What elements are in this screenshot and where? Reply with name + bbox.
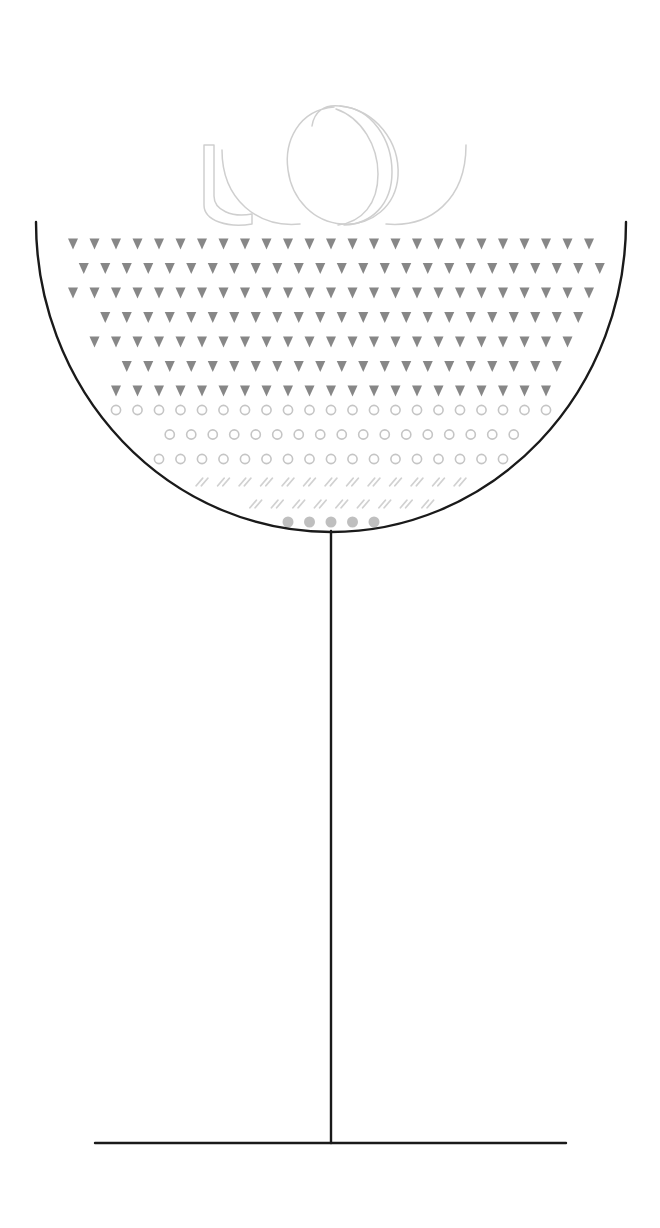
triangle-marker <box>509 263 519 274</box>
triangle-marker <box>154 239 164 250</box>
slash-marker <box>357 500 369 508</box>
slash-marker <box>196 478 208 486</box>
circle-marker <box>455 454 464 463</box>
circle-marker <box>283 405 292 414</box>
slash-marker <box>433 478 445 486</box>
triangle-marker <box>186 312 196 323</box>
circle-marker <box>197 405 206 414</box>
triangle-marker <box>498 337 508 348</box>
slash-marker <box>282 478 294 486</box>
circle-marker <box>380 430 389 439</box>
triangle-marker <box>229 263 239 274</box>
triangle-marker <box>369 239 379 250</box>
triangle-marker <box>90 288 100 299</box>
circle-layer <box>111 405 550 463</box>
triangle-marker <box>176 337 186 348</box>
triangle-marker <box>176 239 186 250</box>
triangle-marker <box>262 337 272 348</box>
circle-marker <box>423 430 432 439</box>
circle-marker <box>412 454 421 463</box>
triangle-marker <box>444 361 454 372</box>
triangle-marker <box>358 361 368 372</box>
triangle-marker <box>487 361 497 372</box>
triangle-marker <box>294 263 304 274</box>
circle-marker <box>230 430 239 439</box>
triangle-marker <box>283 239 293 250</box>
triangle-marker <box>154 386 164 397</box>
triangle-marker <box>122 263 132 274</box>
triangle-marker <box>552 312 562 323</box>
triangle-marker <box>90 337 100 348</box>
circle-marker <box>520 405 529 414</box>
triangle-marker <box>358 312 368 323</box>
triangle-marker <box>315 263 325 274</box>
triangle-marker <box>563 288 573 299</box>
triangle-marker <box>283 386 293 397</box>
circle-marker <box>466 430 475 439</box>
slash-layer <box>196 478 466 508</box>
triangle-marker <box>434 239 444 250</box>
triangle-marker <box>455 337 465 348</box>
slash-marker <box>336 500 348 508</box>
triangle-marker <box>423 361 433 372</box>
triangle-marker <box>111 288 121 299</box>
circle-marker <box>488 430 497 439</box>
triangle-marker <box>326 288 336 299</box>
circle-marker <box>348 405 357 414</box>
triangle-marker <box>530 361 540 372</box>
circle-marker <box>337 430 346 439</box>
triangle-marker <box>541 386 551 397</box>
triangle-marker <box>401 361 411 372</box>
triangle-marker <box>143 312 153 323</box>
triangle-marker <box>229 361 239 372</box>
triangle-marker <box>434 386 444 397</box>
slash-marker <box>325 478 337 486</box>
triangle-marker <box>229 312 239 323</box>
circle-marker <box>369 454 378 463</box>
triangle-marker <box>186 263 196 274</box>
triangle-marker <box>369 386 379 397</box>
triangle-marker <box>423 263 433 274</box>
triangle-marker <box>143 263 153 274</box>
triangle-marker <box>262 239 272 250</box>
triangle-marker <box>552 361 562 372</box>
triangle-marker <box>315 312 325 323</box>
triangle-marker <box>154 337 164 348</box>
triangle-marker <box>498 239 508 250</box>
triangle-marker <box>133 337 143 348</box>
triangle-marker <box>573 263 583 274</box>
triangle-marker <box>455 386 465 397</box>
triangle-marker <box>251 263 261 274</box>
triangle-marker <box>219 288 229 299</box>
triangle-marker <box>530 263 540 274</box>
triangle-marker <box>348 386 358 397</box>
triangle-marker <box>337 312 347 323</box>
circle-marker <box>283 454 292 463</box>
triangle-marker <box>520 239 530 250</box>
triangle-marker <box>563 337 573 348</box>
triangle-marker <box>563 239 573 250</box>
triangle-marker <box>552 263 562 274</box>
circle-marker <box>133 405 142 414</box>
circle-marker <box>294 430 303 439</box>
triangle-marker <box>477 386 487 397</box>
slash-marker <box>411 478 423 486</box>
circle-marker <box>391 454 400 463</box>
triangle-marker <box>380 312 390 323</box>
dot-marker <box>326 517 337 528</box>
triangle-marker <box>154 288 164 299</box>
circle-marker <box>412 405 421 414</box>
triangle-marker <box>208 361 218 372</box>
circle-marker <box>541 405 550 414</box>
aroma-swirls <box>204 106 466 225</box>
triangle-marker <box>358 263 368 274</box>
triangle-marker <box>272 263 282 274</box>
ribbon-curl-left-inner-icon <box>222 150 300 224</box>
triangle-marker <box>305 337 315 348</box>
dot-marker <box>347 517 358 528</box>
triangle-marker <box>122 361 132 372</box>
circle-marker <box>262 454 271 463</box>
triangle-marker <box>165 263 175 274</box>
cocktail-glass-illustration <box>0 0 660 1228</box>
triangle-marker <box>348 337 358 348</box>
